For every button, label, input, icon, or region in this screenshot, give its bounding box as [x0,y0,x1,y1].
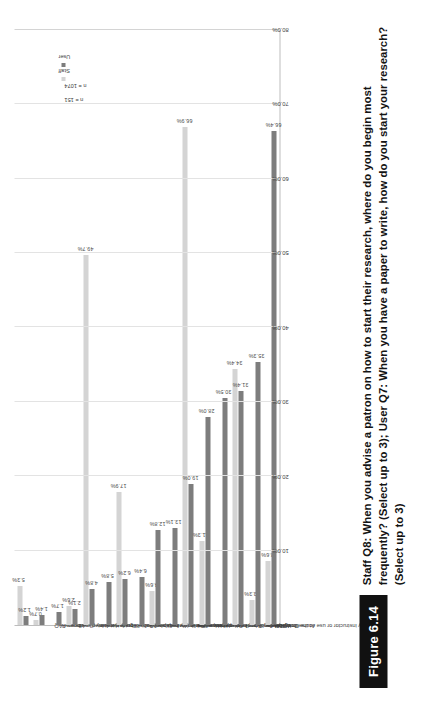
legend-label-user: User [58,54,70,60]
bar-line: 1.2% [23,30,28,625]
bar-user [172,528,177,625]
axis-tick-label: 50.0% [272,251,288,257]
bar-user [238,391,243,625]
bar-value-label: 5.8% [101,573,114,579]
plot-area: "How to get started" web pages5.3%1.2%Li… [14,30,280,626]
bar-staff [83,255,88,625]
gridline [14,401,279,402]
figure-caption-block: Figure 6.14 Staff Q8: When you advise a … [352,0,433,718]
axis-tick-label: 30.0% [272,400,288,406]
bar-value-label: 35.3% [248,353,264,359]
bar-line: 6.2% [122,30,127,625]
legend-swatch-staff [61,77,65,81]
bar-line: 11.3% [199,30,204,625]
bar-staff [66,606,71,625]
bar-value-label: 6.2% [117,570,130,576]
bar-value-label: 13.1% [165,519,181,525]
bar-value-label: 30.5% [215,389,231,395]
legend-swatch-user [61,63,65,67]
legend-n-column: n = 151n = 1074 [18,89,64,112]
gridline [14,178,279,179]
bar-row: Library subject guides49.7%4.8% [82,30,95,625]
bar-row: Online library tutorials2.6%2.1% [65,30,78,625]
bar-row: Library FAQ0.7%1.4% [32,30,45,625]
bar-line: 1.7% [56,30,61,625]
legend-entry-staff[interactable]: Staff [18,74,64,83]
bar-line [216,30,221,625]
bar-line: 4.6% [149,30,154,625]
bar-line: 5.8% [106,30,111,625]
bar-user [188,484,193,625]
bar-value-label: 2.1% [68,600,81,606]
bar-rows: "How to get started" web pages5.3%1.2%Li… [14,30,279,625]
x-axis-ticks: 0.0%10.0%20.0%30.0%40.0%50.0%60.0%70.0%8… [280,30,306,626]
bar-value-label: 66.4% [265,122,281,128]
bar-line: 49.7% [83,30,88,625]
bar-user [122,579,127,625]
bar-staff [116,492,121,625]
bar-line [50,30,55,625]
legend-staff-n: n = 151 [18,103,64,112]
bar-line: 0.7% [33,30,38,625]
legend-series-column: StaffUser [18,60,64,83]
bar-staff [232,369,237,625]
legend-n-text: n = 1074 [64,83,86,89]
axis-tick-label: 80.0% [272,27,288,33]
bar-line [133,30,138,625]
bar-value-label: 1.7% [51,603,64,609]
bar-value-label: 31.4% [232,382,248,388]
gridline [14,29,279,30]
bar-value-label: 6.4% [134,568,147,574]
chart-legend: n = 151n = 1074StaffUser [18,60,64,112]
bar-line: 30.5% [222,30,227,625]
bar-staff [149,591,154,625]
bar-row: I browse the library book shelves5.8% [99,30,112,625]
bar-staff [199,541,204,625]
axis-tick-label: 70.0% [272,102,288,108]
bar-line: 2.6% [66,30,71,625]
bar-value-label: 12.8% [149,521,165,527]
axis-tick-label: 40.0% [272,325,288,331]
axis-tick-label: 20.0% [272,474,288,480]
bar-value-label: 4.8% [84,580,97,586]
gridline [14,475,279,476]
bar-line: 35.3% [255,30,260,625]
gridline [14,327,279,328]
bar-user [155,530,160,625]
bar-user [205,417,210,625]
bar-row: Other (please specify)17.9%6.2% [115,30,128,625]
bar-row: I ask my parents1.7% [49,30,62,625]
bar-staff [265,561,270,625]
bar-staff [249,600,254,625]
bar-line: 1.4% [39,30,44,625]
bar-user [139,577,144,625]
bar-chart: "How to get started" web pages5.3%1.2%Li… [0,0,352,718]
rotated-figure-stage: "How to get started" web pages5.3%1.2%Li… [0,0,433,718]
bar-line: 34.4% [232,30,237,625]
bar-user [56,612,61,625]
bar-user [39,615,44,625]
legend-user-n: n = 1074 [18,89,64,98]
bar-row: Wikipedia3.3%35.3% [248,30,261,625]
bar-line: 66.9% [182,30,187,625]
bar-value-label: 28.0% [199,408,215,414]
bar-line: 28.0% [205,30,210,625]
bar-line: 5.3% [17,30,22,625]
bar-line: 17.9% [116,30,121,625]
bar-line [166,30,171,625]
bar-row: "How to get started" web pages5.3%1.2% [16,30,29,625]
bar-value-label: 1.4% [35,606,48,612]
bar-line: 3.3% [249,30,254,625]
bar-line: 12.8% [155,30,160,625]
legend-entry-user[interactable]: User [18,60,64,69]
bar-line: 4.8% [89,30,94,625]
bar-row: I ask my instructor or use course materi… [215,30,228,625]
figure-number-tag: Figure 6.14 [359,595,387,688]
gridline [14,550,279,551]
bar-staff [17,586,22,625]
bar-line [100,30,105,625]
bar-line: 31.4% [238,30,243,625]
bar-staff [33,620,38,625]
bar-row: Google Scholar11.3%28.0% [198,30,211,625]
bar-line: 6.4% [139,30,144,625]
